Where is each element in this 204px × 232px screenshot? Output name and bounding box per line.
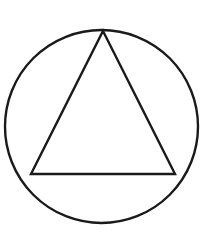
- circle-triangle-svg: [0, 0, 204, 232]
- figure-canvas: [0, 0, 204, 232]
- outer-circle: [5, 30, 198, 223]
- inscribed-triangle: [31, 31, 175, 174]
